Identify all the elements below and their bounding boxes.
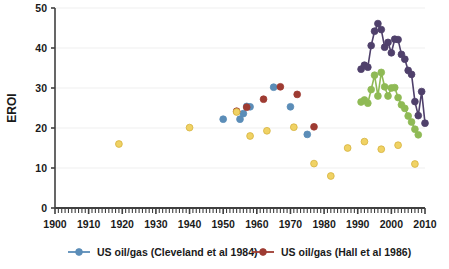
data-point bbox=[401, 56, 408, 63]
data-point bbox=[378, 69, 385, 76]
legend-marker bbox=[76, 249, 83, 256]
data-point bbox=[412, 161, 419, 168]
data-point bbox=[385, 39, 392, 46]
x-axis-tick-label: 1920 bbox=[111, 218, 135, 230]
data-point bbox=[395, 94, 402, 101]
data-point bbox=[186, 124, 193, 131]
eroi-chart: 01020304050 1900191019201930194019501960… bbox=[0, 0, 449, 269]
y-axis-tick-label: 30 bbox=[35, 82, 47, 94]
data-point bbox=[378, 146, 385, 153]
x-axis-tick-label: 1990 bbox=[346, 218, 370, 230]
data-point bbox=[381, 83, 388, 90]
data-point bbox=[277, 83, 284, 90]
x-axis-tick-label: 2000 bbox=[380, 218, 404, 230]
data-point bbox=[395, 142, 402, 149]
data-point bbox=[311, 160, 318, 167]
y-axis-tick-label: 20 bbox=[35, 122, 47, 134]
chart-canvas: 01020304050 1900191019201930194019501960… bbox=[0, 0, 449, 269]
data-point bbox=[408, 71, 415, 78]
data-point bbox=[294, 91, 301, 98]
data-point bbox=[401, 105, 408, 112]
y-axis-tick-label: 10 bbox=[35, 162, 47, 174]
x-axis-tick-label: 1970 bbox=[279, 218, 303, 230]
x-axis-tick-label: 1910 bbox=[77, 218, 101, 230]
data-point bbox=[364, 100, 371, 107]
x-axis-tick-label: 2010 bbox=[413, 218, 437, 230]
data-point bbox=[361, 138, 368, 145]
data-point bbox=[247, 133, 254, 140]
data-point bbox=[304, 131, 311, 138]
legend-marker bbox=[260, 249, 267, 256]
legend-label: US oil/gas (Hall et al 1986) bbox=[281, 246, 411, 258]
data-point bbox=[116, 141, 123, 148]
data-point bbox=[264, 127, 271, 134]
x-axis-tick-label: 1960 bbox=[245, 218, 269, 230]
data-point bbox=[364, 64, 371, 71]
data-point bbox=[371, 72, 378, 79]
data-point bbox=[368, 42, 375, 49]
data-point bbox=[375, 93, 382, 100]
x-axis-tick-label: 1980 bbox=[312, 218, 336, 230]
data-point bbox=[415, 131, 422, 138]
data-point bbox=[240, 110, 247, 117]
data-point bbox=[371, 28, 378, 35]
data-point bbox=[260, 96, 267, 103]
x-axis-tick-label: 1930 bbox=[144, 218, 168, 230]
data-point bbox=[220, 116, 227, 123]
data-point bbox=[287, 103, 294, 110]
data-point bbox=[327, 173, 334, 180]
y-axis-tick-label: 40 bbox=[35, 42, 47, 54]
data-point bbox=[243, 104, 250, 111]
data-point bbox=[290, 124, 297, 131]
x-axis-tick-label: 1950 bbox=[212, 218, 236, 230]
data-point bbox=[385, 93, 392, 100]
data-point bbox=[408, 119, 415, 126]
data-point bbox=[368, 86, 375, 93]
y-axis-label: EROI bbox=[5, 93, 19, 122]
x-axis-tick-label: 1900 bbox=[43, 218, 67, 230]
data-point bbox=[418, 88, 425, 95]
data-point bbox=[378, 26, 385, 33]
data-point bbox=[412, 98, 419, 105]
data-point bbox=[311, 123, 318, 130]
data-point bbox=[344, 145, 351, 152]
data-point bbox=[388, 49, 395, 56]
chart-legend: US oil/gas (Cleveland et al 1984)US oil/… bbox=[68, 246, 411, 258]
y-axis-tick-label: 0 bbox=[41, 202, 47, 214]
legend-label: US oil/gas (Cleveland et al 1984) bbox=[97, 246, 257, 258]
data-point bbox=[415, 112, 422, 119]
data-point bbox=[391, 84, 398, 91]
data-point bbox=[422, 120, 429, 127]
data-point bbox=[395, 36, 402, 43]
data-point bbox=[270, 84, 277, 91]
data-point bbox=[233, 109, 240, 116]
x-axis-tick-label: 1940 bbox=[178, 218, 202, 230]
y-axis-tick-label: 50 bbox=[35, 2, 47, 14]
